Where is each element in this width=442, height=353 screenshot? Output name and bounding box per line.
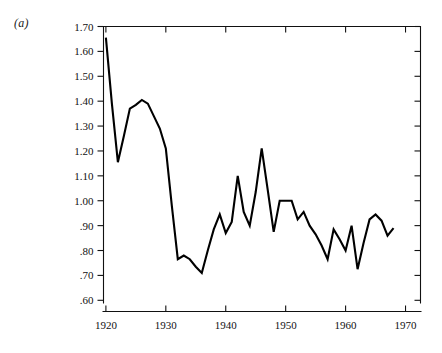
y-tick-label: .80 xyxy=(80,245,94,257)
figure-panel: (a) 1.701.601.501.401.301.201.101.00.90.… xyxy=(0,0,442,353)
x-tick-label: 1970 xyxy=(395,319,418,331)
line-chart: 1.701.601.501.401.301.201.101.00.90.80.7… xyxy=(0,0,442,353)
x-axis-tick-labels: 192019301940195019601970 xyxy=(95,319,417,331)
y-tick-label: 1.30 xyxy=(74,120,94,132)
y-tick-label: 1.00 xyxy=(74,195,94,207)
y-tick-label: 1.40 xyxy=(74,95,94,107)
y-tick-label: .90 xyxy=(80,220,94,232)
y-tick-label: .60 xyxy=(80,294,94,306)
y-tick-label: .70 xyxy=(80,269,94,281)
x-tick-label: 1930 xyxy=(155,319,178,331)
x-tick-label: 1940 xyxy=(215,319,238,331)
plot-frame xyxy=(104,27,421,304)
x-tick-label: 1960 xyxy=(335,319,358,331)
y-tick-label: 1.60 xyxy=(74,45,94,57)
y-tick-label: 1.20 xyxy=(74,145,94,157)
axis-frame xyxy=(103,27,422,312)
y-tick-label: 1.10 xyxy=(74,170,94,182)
y-tick-label: 1.70 xyxy=(74,21,94,33)
x-tick-label: 1950 xyxy=(275,319,298,331)
x-tick-label: 1920 xyxy=(95,319,118,331)
series-line xyxy=(106,38,394,273)
y-tick-label: 1.50 xyxy=(74,70,94,82)
y-axis-tick-labels: 1.701.601.501.401.301.201.101.00.90.80.7… xyxy=(74,21,94,307)
data-series xyxy=(106,38,394,273)
